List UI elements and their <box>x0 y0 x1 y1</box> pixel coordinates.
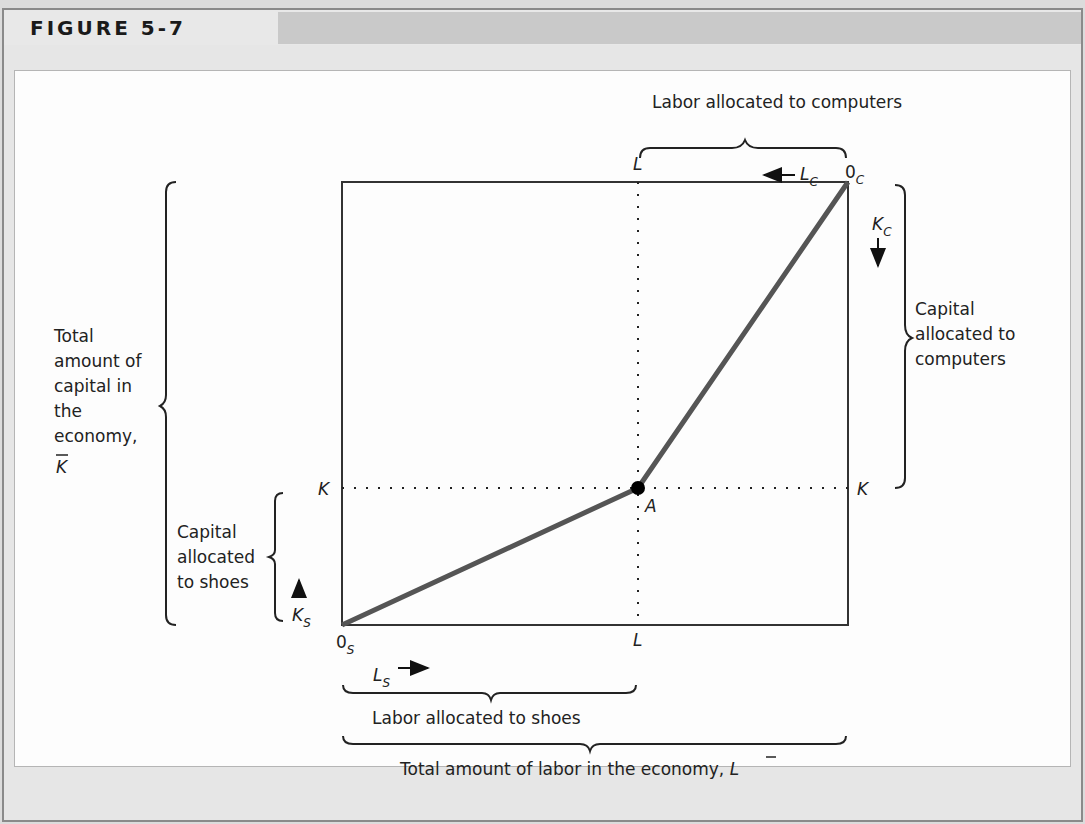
allocation-path <box>342 182 848 625</box>
edgeworth-box <box>342 182 848 625</box>
left-shoes-brace <box>269 493 283 621</box>
right-brace <box>895 185 912 488</box>
edgeworth-box-diagram: Labor allocated to computers LC L 0C KC … <box>0 0 1085 824</box>
ks-label: KS <box>292 605 311 630</box>
point-a-marker <box>631 481 645 495</box>
l-top-label: L <box>633 154 642 174</box>
top-brace <box>640 140 846 158</box>
capital-total-label: Total amount of capital in the economy, <box>53 326 147 446</box>
k-left-label: K <box>318 479 331 499</box>
labor-shoes-label: Labor allocated to shoes <box>372 708 581 728</box>
lc-label: LC <box>800 164 818 189</box>
bottom-total-brace <box>343 736 846 751</box>
capital-computers-label: Capital allocated to computers <box>915 299 1021 369</box>
point-a-label: A <box>644 496 657 516</box>
k-right-label: K <box>857 479 870 499</box>
origin-shoes-label: 0S <box>336 632 355 657</box>
l-bottom-label: L <box>633 630 642 650</box>
capital-shoes-label: Capital allocated to shoes <box>177 522 260 592</box>
left-total-brace <box>160 182 176 625</box>
labor-computers-label: Labor allocated to computers <box>652 92 902 112</box>
ls-label: LS <box>373 665 390 690</box>
labor-total-label: Total amount of labor in the economy, L <box>399 759 739 779</box>
kc-label: KC <box>872 214 892 239</box>
k-bar-symbol: K <box>56 457 69 477</box>
